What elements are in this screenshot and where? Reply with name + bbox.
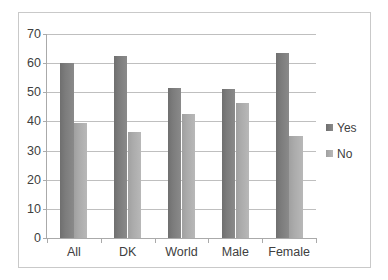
bar-world-no[interactable]: [182, 114, 195, 238]
legend-label: Yes: [337, 121, 357, 135]
bar-female-no[interactable]: [289, 136, 302, 238]
x-tick-label-world: World: [165, 245, 197, 259]
bar-group-male: [221, 34, 249, 238]
bar-male-no[interactable]: [236, 103, 249, 239]
y-tick-label-30: 30: [27, 144, 41, 158]
chart-frame: 010203040506070 AllDKWorldMaleFemale Yes…: [18, 12, 371, 268]
x-tick-label-all: All: [67, 245, 81, 259]
chart-legend: YesNo: [326, 121, 372, 173]
y-tick-label-10: 10: [27, 202, 41, 216]
legend-label: No: [337, 147, 352, 161]
bar-dk-yes[interactable]: [114, 56, 127, 238]
x-tick-label-female: Female: [268, 245, 310, 259]
y-tick-label-40: 40: [27, 114, 41, 128]
bar-group-female: [275, 34, 303, 238]
x-axis-tick-labels: AllDKWorldMaleFemale: [47, 245, 316, 263]
x-tick-mark: [316, 238, 317, 243]
bar-female-yes[interactable]: [276, 53, 289, 238]
y-tick-label-20: 20: [27, 173, 41, 187]
y-tick-label-0: 0: [34, 231, 41, 245]
y-tick-label-50: 50: [27, 85, 41, 99]
bar-group-dk: [114, 34, 142, 238]
x-tick-mark: [47, 238, 48, 243]
legend-item-no[interactable]: No: [326, 147, 372, 160]
bar-group-world: [168, 34, 196, 238]
x-tick-mark: [262, 238, 263, 243]
legend-swatch-icon: [326, 150, 333, 157]
bar-world-yes[interactable]: [168, 88, 181, 238]
bar-dk-no[interactable]: [128, 132, 141, 238]
legend-swatch-icon: [326, 124, 333, 131]
bar-group-all: [60, 34, 88, 238]
legend-item-yes[interactable]: Yes: [326, 121, 372, 134]
x-tick-mark: [101, 238, 102, 243]
bar-all-yes[interactable]: [60, 63, 73, 238]
y-tick-label-70: 70: [27, 27, 41, 41]
bars-layer: [47, 34, 316, 238]
x-tick-mark: [155, 238, 156, 243]
x-axis-tick-marks: [47, 238, 316, 243]
y-axis-tick-labels: 010203040506070: [17, 34, 47, 238]
y-tick-label-60: 60: [27, 56, 41, 70]
x-tick-label-male: Male: [222, 245, 249, 259]
x-tick-label-dk: DK: [119, 245, 136, 259]
x-tick-mark: [208, 238, 209, 243]
bar-all-no[interactable]: [74, 123, 87, 238]
plot-area: 010203040506070 AllDKWorldMaleFemale: [47, 34, 316, 238]
bar-male-yes[interactable]: [222, 89, 235, 238]
